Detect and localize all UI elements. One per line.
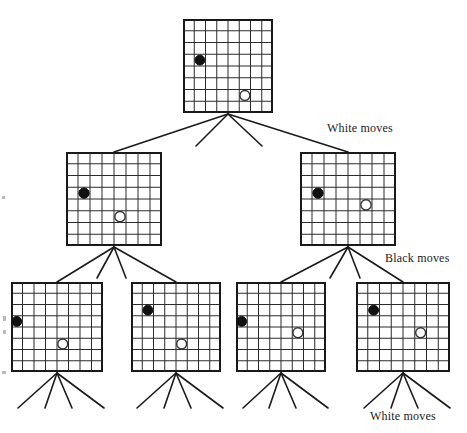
board-level3-4[interactable] (356, 282, 450, 372)
board-level3-1-grid (11, 282, 103, 372)
black-stone[interactable] (143, 305, 153, 315)
board-level2-right[interactable] (300, 152, 396, 246)
board-level3-3[interactable] (236, 282, 326, 372)
board-level3-3-grid (236, 282, 326, 372)
white-stone[interactable] (361, 200, 371, 210)
white-moves-level-3: White moves (370, 409, 436, 424)
black-moves-level-2: Black moves (385, 251, 450, 266)
board-level3-2-grid (131, 282, 221, 372)
white-stone[interactable] (115, 211, 125, 221)
white-stone[interactable] (177, 339, 187, 349)
fan-root-edge-1 (114, 114, 228, 152)
fan-root (114, 114, 348, 152)
white-stone[interactable] (240, 90, 250, 100)
scan-speck-4 (2, 196, 5, 199)
white-stone[interactable] (58, 339, 68, 349)
board-level2-left-grid (66, 152, 162, 246)
fan-level2-left-edge-4 (114, 247, 176, 282)
black-stone[interactable] (369, 305, 379, 315)
scan-speck-1 (3, 316, 6, 321)
black-stone[interactable] (237, 316, 247, 326)
scan-speck-2 (3, 330, 6, 334)
scan-speck-3 (2, 371, 6, 374)
black-stone[interactable] (79, 188, 89, 198)
fan-level2-left-edge-3 (114, 247, 126, 278)
board-root-grid (183, 19, 273, 113)
board-root[interactable] (183, 19, 273, 113)
black-stone[interactable] (313, 188, 323, 198)
board-level2-left[interactable] (66, 152, 162, 246)
fan-level3-3 (243, 373, 328, 408)
white-stone[interactable] (416, 328, 426, 338)
board-level3-2[interactable] (131, 282, 221, 372)
white-moves-level-1: White moves (327, 121, 393, 136)
fan-level2-left (57, 247, 176, 282)
board-level2-right-grid (300, 152, 396, 246)
game-tree-figure: White movesBlack movesWhite moves (0, 0, 467, 433)
black-stone[interactable] (195, 55, 205, 65)
black-stone[interactable] (12, 316, 22, 326)
board-level3-4-grid (356, 282, 450, 372)
fan-level2-left-edge-1 (57, 247, 114, 282)
white-stone[interactable] (293, 328, 303, 338)
board-level3-1[interactable] (11, 282, 103, 372)
fan-level3-4 (364, 373, 450, 408)
fan-level3-2 (137, 373, 223, 408)
fan-level3-1 (18, 373, 104, 408)
